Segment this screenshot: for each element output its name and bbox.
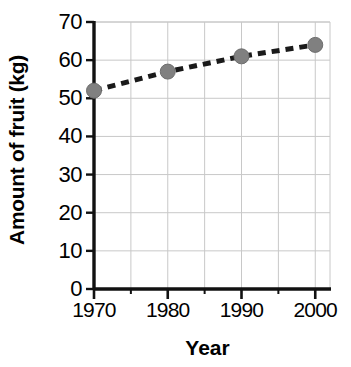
data-point-1990 xyxy=(234,49,249,64)
plot-border xyxy=(94,22,330,289)
horizontal-gridlines xyxy=(94,22,330,251)
axis-tick-marks xyxy=(86,22,315,299)
data-point-2000 xyxy=(308,37,323,52)
axis-spines xyxy=(93,21,331,289)
data-point-1970 xyxy=(87,83,102,98)
chart-container: Amount of fruit (kg) 010203040506070 197… xyxy=(0,0,351,367)
data-point-1980 xyxy=(160,64,175,79)
plot-area xyxy=(0,0,351,367)
